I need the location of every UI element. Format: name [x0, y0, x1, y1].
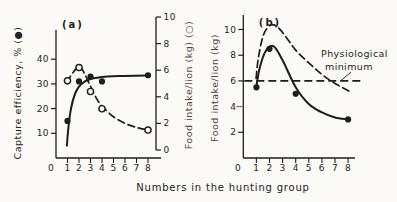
filled-data-point-observed-food-intake — [253, 84, 259, 90]
y-tick-label: 10 — [37, 128, 49, 138]
y-tick-label: 8 — [230, 50, 236, 60]
x-tick-label: 5 — [110, 163, 116, 173]
panel-b-left-axis-label: Food intake/lion (kg) — [209, 34, 220, 142]
x-tick-label: 4 — [99, 163, 105, 173]
curve-capture-efficiency — [67, 76, 148, 146]
dual-panel-line-chart: 01234567810203040Capture efficiency, % (… — [0, 0, 397, 202]
y-tick-label: 6 — [230, 76, 236, 86]
open-data-point-food-intake-per-lion — [99, 106, 105, 112]
open-data-point-food-intake-per-lion — [76, 64, 82, 70]
y-tick-label: 6 — [164, 65, 170, 75]
open-data-point-food-intake-per-lion — [145, 127, 151, 133]
annotation-leader-line — [340, 72, 351, 82]
x-tick-label: 1 — [64, 163, 70, 173]
filled-data-point-capture-efficiency — [99, 78, 105, 84]
x-tick-label: 6 — [122, 163, 128, 173]
x-axis-title: Numbers in the hunting group — [88, 182, 358, 193]
x-tick-label: 8 — [345, 163, 351, 173]
y-tick-label: 40 — [37, 54, 49, 64]
filled-data-point-capture-efficiency — [87, 73, 93, 79]
y-tick-label: 10 — [224, 25, 236, 35]
y-tick-label: 8 — [164, 39, 170, 49]
x-tick-label: 6 — [319, 163, 325, 173]
filled-data-point-observed-food-intake — [293, 91, 299, 97]
y-tick-label: 2 — [230, 127, 236, 137]
x-tick-label: 0 — [235, 163, 241, 173]
y-tick-label: 30 — [37, 79, 49, 89]
y-tick-label: 0 — [164, 145, 170, 155]
x-tick-label: 2 — [266, 163, 272, 173]
y-tick-label: 4 — [164, 92, 170, 102]
x-tick-label: 1 — [253, 163, 259, 173]
panel-label-a: (a) — [62, 19, 84, 30]
panel-a-right-axis-label: Food intake/lion (kg) (○) — [183, 21, 194, 150]
x-tick-label: 4 — [293, 163, 299, 173]
annotation-line1: Physiological — [321, 48, 388, 59]
x-tick-label: 5 — [306, 163, 312, 173]
filled-data-point-observed-food-intake — [345, 116, 351, 122]
filled-data-point-capture-efficiency — [76, 78, 82, 84]
open-data-point-food-intake-per-lion — [64, 78, 70, 84]
filled-data-point-capture-efficiency — [64, 118, 70, 124]
x-tick-label: 3 — [87, 163, 93, 173]
y-tick-label: 10 — [164, 12, 176, 22]
x-tick-label: 7 — [332, 163, 338, 173]
x-tick-label: 3 — [280, 163, 286, 173]
y-tick-label: 4 — [230, 102, 236, 112]
filled-data-point-observed-food-intake — [266, 46, 272, 52]
y-tick-label: 2 — [164, 118, 170, 128]
open-data-point-food-intake-per-lion — [87, 88, 93, 94]
x-tick-label: 2 — [76, 163, 82, 173]
filled-data-point-capture-efficiency — [145, 72, 151, 78]
x-tick-label: 0 — [48, 163, 54, 173]
annotation-line2: minimum — [325, 61, 373, 72]
y-tick-label: 20 — [37, 104, 49, 114]
panel-a-left-axis-label: Capture efficiency, % (●) — [12, 27, 23, 160]
x-tick-label: 8 — [145, 163, 151, 173]
figure: 01234567810203040Capture efficiency, % (… — [0, 0, 397, 202]
x-tick-label: 7 — [133, 163, 139, 173]
